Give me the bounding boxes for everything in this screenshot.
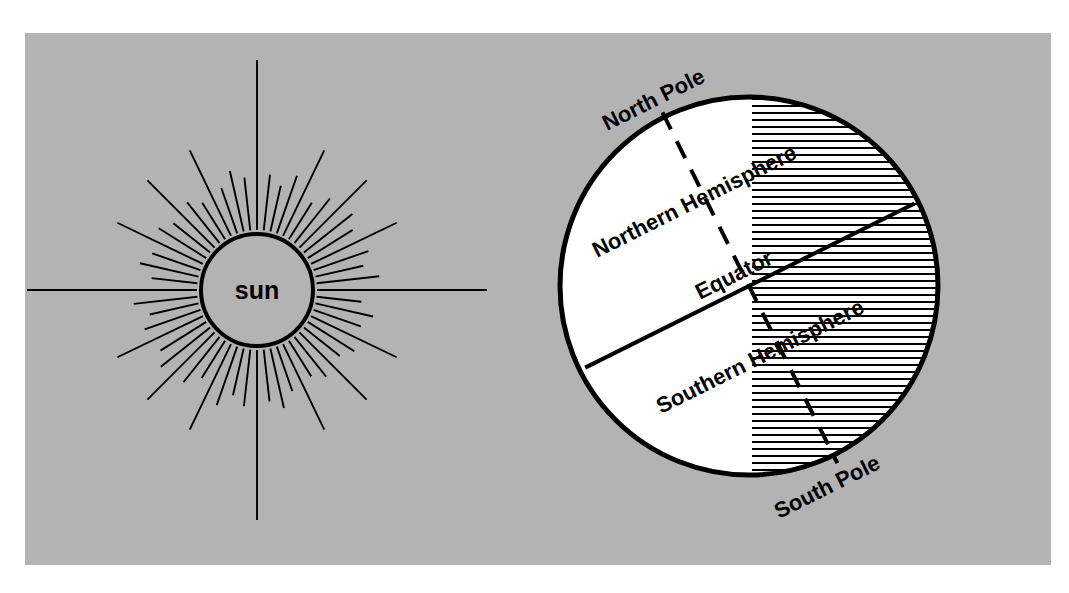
diagram-figure: sun North Pole Northern Hemisphere Eq (0, 0, 1069, 593)
diagram-panel (25, 33, 1051, 565)
